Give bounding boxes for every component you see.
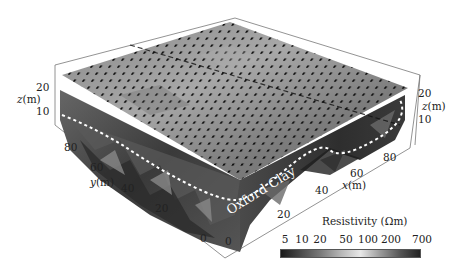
colorbar-title: Resistivity (Ωm): [322, 216, 407, 227]
colorbar: [280, 249, 421, 258]
y-tick-40: 40: [121, 183, 134, 194]
y-tick-60: 60: [90, 162, 103, 173]
x-axis-label: x(m): [342, 180, 366, 191]
x-tick-20: 20: [277, 209, 290, 220]
z-right-axis-label: z(m): [422, 101, 446, 112]
colorbar-tick: 100: [358, 234, 378, 245]
x-tick-60: 60: [350, 168, 363, 179]
colorbar-tick: 700: [412, 234, 432, 245]
z-left-axis-label: z(m): [17, 94, 41, 105]
y-axis-label: y(m): [90, 177, 114, 188]
colorbar-tick: 10: [295, 234, 308, 245]
y-tick-20: 20: [155, 203, 168, 214]
z-right-tick-10: 10: [418, 114, 431, 125]
z-left-tick-20: 20: [36, 82, 49, 93]
colorbar-tick: 20: [313, 234, 326, 245]
colorbar-tick: 5: [282, 234, 289, 245]
colorbar-tick: 200: [381, 234, 401, 245]
y-tick-80: 80: [64, 142, 77, 153]
z-right-tick-20: 20: [418, 88, 431, 99]
x-tick-80: 80: [383, 152, 396, 163]
y-tick-0: 0: [200, 233, 207, 244]
x-tick-0: 0: [225, 236, 232, 247]
x-tick-40: 40: [315, 185, 328, 196]
z-left-tick-10: 10: [36, 106, 49, 117]
colorbar-tick: 50: [339, 234, 352, 245]
resistivity-figure: Oxford Clay 20 z(m) 10 20 z(m) 10 80 60 …: [0, 0, 461, 262]
